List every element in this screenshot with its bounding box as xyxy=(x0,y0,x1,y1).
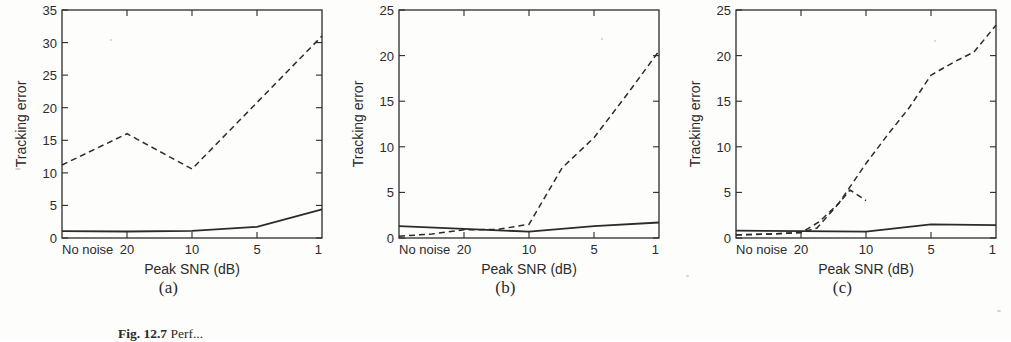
y-tick-label: 20 xyxy=(380,49,394,64)
series-dashed-curve xyxy=(736,25,996,235)
y-axis-title: Tracking error xyxy=(13,80,29,167)
x-tick-label: 5 xyxy=(253,242,260,257)
y-tick-label: 25 xyxy=(43,68,57,83)
y-tick-label: 35 xyxy=(43,3,57,18)
x-tick-label: 10 xyxy=(185,242,199,257)
y-tick-label: 0 xyxy=(387,231,394,246)
y-tick-label: 15 xyxy=(380,94,394,109)
y-tick-label: 20 xyxy=(43,101,57,116)
panel-sublabel-b: (b) xyxy=(337,278,674,298)
scan-speck xyxy=(601,38,603,40)
series-dashed xyxy=(399,51,659,236)
y-tick-labels: 0 5 10 15 20 25 xyxy=(717,3,731,246)
scan-speck xyxy=(15,168,21,170)
y-tick-label: 5 xyxy=(387,185,394,200)
y-tick-label: 10 xyxy=(380,140,394,155)
panel-sublabel-a: (a) xyxy=(0,278,337,298)
x-tick-label: 10 xyxy=(859,242,873,257)
chart-svg-c: 0 5 10 15 20 25 No noise 20 10 5 1 Peak … xyxy=(674,0,1011,280)
figure-caption: Fig. 12.7 Perf... xyxy=(118,326,203,342)
x-tick-label: 20 xyxy=(794,242,808,257)
y-tick-labels: 0 5 10 15 20 25 30 35 xyxy=(43,3,57,246)
plot-frame xyxy=(62,10,322,238)
y-tick-label: 0 xyxy=(724,231,731,246)
y-tick-marks xyxy=(399,10,659,238)
x-tick-label: 20 xyxy=(120,242,134,257)
x-tick-labels: No noise 20 10 5 1 xyxy=(736,242,996,257)
x-axis-title: Peak SNR (dB) xyxy=(144,261,240,277)
x-axis-title: Peak SNR (dB) xyxy=(818,261,914,277)
scan-speck xyxy=(934,40,936,42)
y-axis-title: Tracking error xyxy=(350,80,366,167)
y-tick-label: 5 xyxy=(724,185,731,200)
series-dashed-main xyxy=(736,192,866,235)
x-tick-label: 1 xyxy=(315,242,322,257)
x-tick-label: 1 xyxy=(989,242,996,257)
x-tick-marks xyxy=(127,10,257,238)
y-tick-marks xyxy=(62,10,322,238)
scan-speck xyxy=(110,39,112,41)
x-tick-label: No noise xyxy=(736,242,787,257)
y-tick-label: 0 xyxy=(50,231,57,246)
plot-frame xyxy=(399,10,659,238)
x-tick-label: 5 xyxy=(590,242,597,257)
y-tick-label: 15 xyxy=(43,133,57,148)
x-axis-title: Peak SNR (dB) xyxy=(481,261,577,277)
y-tick-label: 15 xyxy=(717,94,731,109)
y-tick-labels: 0 5 10 15 20 25 xyxy=(380,3,394,246)
y-tick-label: 10 xyxy=(717,140,731,155)
chart-panel-a: 0 5 10 15 20 25 30 35 No noise 20 10 5 1… xyxy=(0,0,337,305)
series-dashed xyxy=(736,190,866,235)
x-tick-label: 5 xyxy=(927,242,934,257)
series-solid xyxy=(62,209,322,231)
x-tick-label: 1 xyxy=(652,242,659,257)
panel-sublabel-c: (c) xyxy=(674,278,1011,298)
x-tick-marks xyxy=(801,10,931,238)
series-solid xyxy=(736,224,996,231)
x-tick-marks xyxy=(464,10,594,238)
caption-number: Fig. 12.7 xyxy=(118,326,167,341)
x-tick-labels: No noise 20 10 5 1 xyxy=(62,242,322,257)
y-tick-label: 20 xyxy=(717,49,731,64)
y-tick-label: 5 xyxy=(50,198,57,213)
y-tick-label: 10 xyxy=(43,166,57,181)
x-tick-label: No noise xyxy=(399,242,450,257)
scan-speck xyxy=(686,275,689,277)
chart-panel-c: 0 5 10 15 20 25 No noise 20 10 5 1 Peak … xyxy=(674,0,1011,305)
chart-svg-b: 0 5 10 15 20 25 No noise 20 10 5 1 Peak … xyxy=(337,0,674,280)
caption-text: Perf... xyxy=(171,326,204,341)
series-dashed xyxy=(62,36,322,169)
scan-speck xyxy=(997,310,1001,312)
x-tick-label: 10 xyxy=(522,242,536,257)
chart-svg-a: 0 5 10 15 20 25 30 35 No noise 20 10 5 1… xyxy=(0,0,337,280)
x-tick-label: No noise xyxy=(62,242,113,257)
y-axis-title: Tracking error xyxy=(687,80,703,167)
plot-frame xyxy=(736,10,996,238)
y-tick-label: 30 xyxy=(43,36,57,51)
chart-panel-b: 0 5 10 15 20 25 No noise 20 10 5 1 Peak … xyxy=(337,0,674,305)
x-tick-label: 20 xyxy=(457,242,471,257)
y-tick-label: 25 xyxy=(380,3,394,18)
y-tick-marks xyxy=(736,10,996,238)
x-tick-labels: No noise 20 10 5 1 xyxy=(399,242,659,257)
y-tick-label: 25 xyxy=(717,3,731,18)
